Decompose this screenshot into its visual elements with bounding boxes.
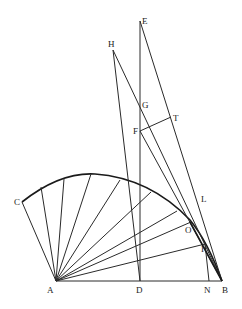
label-I: I (201, 244, 204, 254)
line-EB (140, 21, 222, 281)
label-F: F (133, 126, 138, 136)
label-D: D (136, 285, 143, 295)
label-H: H (108, 39, 115, 49)
label-B: B (222, 285, 228, 295)
label-A: A (47, 285, 54, 295)
label-G: G (142, 100, 149, 110)
line-FT (140, 117, 171, 131)
ray-2 (56, 179, 64, 281)
line-HD (113, 50, 140, 281)
ray-AI (56, 244, 205, 281)
line-AC (22, 202, 56, 281)
label-N: N (204, 285, 211, 295)
label-C: C (14, 197, 20, 207)
label-O: O (185, 225, 192, 235)
label-T: T (173, 113, 179, 123)
ray-6 (56, 211, 177, 281)
label-E: E (142, 16, 148, 26)
label-L: L (201, 194, 207, 204)
geometry-diagram: E H G T F C L O I A D N B (0, 0, 242, 309)
ray-1 (41, 187, 56, 281)
ray-AO (56, 222, 191, 281)
